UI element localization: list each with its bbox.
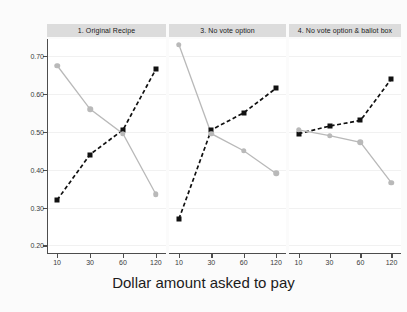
gridline	[169, 170, 286, 171]
data-point-series_black	[153, 67, 158, 72]
chart-figure: 1. Original Recipe 3. No vote option 4. …	[0, 0, 407, 312]
gridline	[289, 245, 401, 246]
gridline	[169, 94, 286, 95]
x-tick-label: 30	[80, 259, 100, 266]
x-tick-label: 120	[266, 259, 286, 266]
x-tick-mark	[211, 254, 212, 258]
panel-plot-area	[47, 39, 166, 253]
x-tick-label: 30	[201, 259, 221, 266]
y-axis-line	[47, 39, 48, 253]
series-lines	[169, 39, 286, 253]
series-line-series_black	[57, 69, 156, 200]
gridline	[289, 208, 401, 209]
x-axis-line	[47, 253, 166, 254]
data-point-series_gray	[327, 133, 333, 139]
series-lines	[47, 39, 166, 253]
panel-strip-1: 1. Original Recipe	[47, 24, 166, 37]
data-point-series_black	[176, 216, 181, 221]
x-tick-mark	[330, 254, 331, 258]
y-tick-label: 0.40	[20, 166, 44, 173]
x-tick-label: 120	[381, 259, 401, 266]
panel-strip-3: 3. No vote option	[169, 24, 286, 37]
y-tick-label: 0.60	[20, 90, 44, 97]
x-tick-label: 60	[113, 259, 133, 266]
data-point-series_gray	[296, 127, 302, 133]
data-point-series_gray	[209, 131, 215, 137]
x-tick-mark	[244, 254, 245, 258]
gridline	[47, 56, 166, 57]
panel-plot-area	[169, 39, 286, 253]
x-tick-mark	[391, 254, 392, 258]
x-tick-label: 10	[289, 259, 309, 266]
data-point-series_gray	[87, 106, 93, 112]
y-tick-label: 0.70	[20, 53, 44, 60]
gridline	[169, 56, 286, 57]
gridline	[47, 132, 166, 133]
gridline	[169, 208, 286, 209]
data-point-series_gray	[54, 63, 60, 69]
data-point-series_black	[358, 118, 363, 123]
x-axis-line	[169, 253, 286, 254]
series-line-series_black	[299, 79, 392, 134]
x-tick-label: 60	[234, 259, 254, 266]
gridline	[47, 94, 166, 95]
panel-strip-4: 4. No vote option & ballot box	[289, 24, 401, 37]
x-tick-mark	[276, 254, 277, 258]
y-tick-label: 0.50	[20, 128, 44, 135]
data-point-series_black	[88, 152, 93, 157]
data-point-series_gray	[273, 171, 279, 177]
panel-strip-label: 1. Original Recipe	[78, 27, 135, 34]
series-line-series_gray	[299, 130, 392, 183]
series-line-series_gray	[57, 66, 156, 195]
data-point-series_gray	[389, 180, 395, 186]
gridline	[47, 170, 166, 171]
gridline	[47, 245, 166, 246]
gridline	[289, 132, 401, 133]
x-tick-mark	[90, 254, 91, 258]
chart-panel-3	[169, 39, 286, 253]
x-tick-label: 10	[169, 259, 189, 266]
x-tick-label: 60	[350, 259, 370, 266]
x-tick-mark	[179, 254, 180, 258]
gridline	[47, 208, 166, 209]
x-tick-mark	[123, 254, 124, 258]
data-point-series_black	[241, 110, 246, 115]
chart-panel-4	[289, 39, 401, 253]
x-tick-mark	[360, 254, 361, 258]
panel-strip-label: 4. No vote option & ballot box	[298, 27, 392, 34]
data-point-series_black	[327, 124, 332, 129]
data-point-series_gray	[120, 131, 126, 137]
series-lines	[289, 39, 401, 253]
x-tick-label: 10	[47, 259, 67, 266]
x-tick-label: 120	[146, 259, 166, 266]
y-tick-label: 0.30	[20, 204, 44, 211]
data-point-series_gray	[176, 42, 182, 48]
x-tick-label: 30	[320, 259, 340, 266]
gridline	[169, 245, 286, 246]
data-point-series_black	[274, 86, 279, 91]
panel-strip-label: 3. No vote option	[200, 27, 255, 34]
y-tick-label: 0.20	[20, 242, 44, 249]
series-line-series_black	[179, 88, 276, 219]
series-line-series_gray	[179, 45, 276, 174]
x-tick-mark	[299, 254, 300, 258]
gridline	[289, 56, 401, 57]
data-point-series_gray	[358, 140, 364, 146]
gridline	[289, 94, 401, 95]
x-axis-title: Dollar amount asked to pay	[0, 274, 407, 291]
x-axis-line	[289, 253, 401, 254]
panel-plot-area	[289, 39, 401, 253]
data-point-series_black	[389, 76, 394, 81]
x-tick-mark	[156, 254, 157, 258]
data-point-series_black	[55, 197, 60, 202]
x-tick-mark	[57, 254, 58, 258]
gridline	[169, 132, 286, 133]
chart-panel-1	[47, 39, 166, 253]
data-point-series_gray	[153, 192, 159, 198]
data-point-series_gray	[241, 148, 247, 154]
gridline	[289, 170, 401, 171]
